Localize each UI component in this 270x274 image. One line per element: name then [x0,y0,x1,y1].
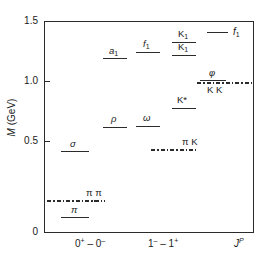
y-tick-mark-0p5 [45,141,50,142]
level-label-sigma: σ [70,139,76,149]
legend-swatch-line [207,32,228,33]
level-label-a1: a1 [109,46,118,57]
level-label-omega: ω [143,113,150,123]
meson-mass-spectrum-chart: 1.5 1.0 0.5 0 M (GeV) σ π π π a1 f1 ρ ω … [0,0,270,274]
level-label-f1: f1 [143,39,150,50]
plot-frame-right [253,21,254,233]
x-axis-title-superscript: P [239,237,244,244]
level-line-k1-lower [172,55,196,56]
y-axis-line [44,21,45,233]
level-label-kstar: K* [177,95,187,105]
y-tick-label-1p0: 1.0 [24,76,38,86]
level-line-f1 [136,52,160,53]
y-tick-label-1p5: 1.5 [24,16,38,26]
level-line-a1 [103,58,127,59]
x-axis-line [44,232,254,233]
y-axis-title-unit: (GeV) [6,99,17,128]
level-line-rho [103,127,127,128]
level-line-kstar [172,108,196,109]
x-tick-label-1minus-1plus: 1– – 1+ [148,238,178,250]
level-line-pi [61,217,89,218]
x-tick-label-0plus-0minus: 0+ – 0– [75,238,105,250]
y-tick-label-0p5: 0.5 [24,136,38,146]
threshold-line-kk [197,82,253,84]
y-tick-mark-0 [45,232,50,233]
level-label-pi: π [71,205,77,215]
level-label-phi: φ [209,68,215,78]
x-axis-title: JP [234,238,244,249]
y-axis-title: M (GeV) [6,83,17,153]
y-tick-mark-1p5 [45,21,50,22]
threshold-label-kk: K K [207,85,222,95]
level-label-k1-upper: K1 [178,29,188,40]
threshold-label-pik: π K [182,137,198,147]
level-line-phi [200,80,226,81]
level-label-k1-lower: K1 [178,42,188,53]
threshold-label-pipi: π π [86,188,102,198]
threshold-line-pipi [47,200,105,202]
plot-frame-top [44,21,254,22]
level-line-sigma [61,151,89,152]
legend-label-f1: f1 [233,26,240,37]
level-line-omega [136,126,160,127]
y-axis-title-variable: M [6,128,17,136]
level-label-rho: ρ [111,114,116,124]
y-tick-mark-1p0 [45,81,50,82]
y-tick-label-0: 0 [32,227,38,237]
threshold-line-pik [151,149,196,151]
